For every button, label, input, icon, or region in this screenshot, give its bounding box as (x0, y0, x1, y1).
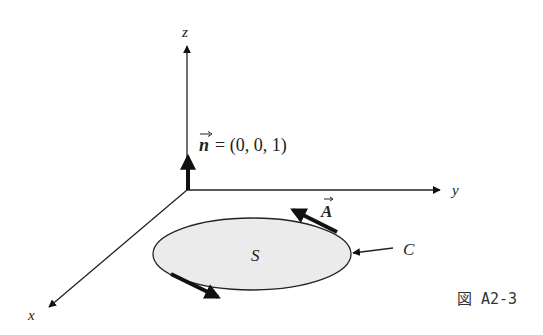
tangent-vector-a-label: A (320, 197, 333, 221)
vector-field-diagram: z y x n = (0, 0, 1) A S C 図 A2-3 (0, 0, 543, 335)
z-axis-label: z (181, 24, 188, 40)
normal-vector-symbol: n (199, 135, 209, 155)
normal-vector-label: n = (0, 0, 1) (199, 132, 287, 157)
y-axis-label: y (450, 182, 459, 198)
figure-caption: 図 A2-3 (457, 290, 517, 308)
x-axis-label: x (27, 307, 35, 323)
curve-c-pointer-arrow (353, 248, 393, 253)
curve-c-label: C (403, 240, 415, 259)
tangent-vector-a-text: A (320, 202, 332, 221)
normal-vector-equation: = (0, 0, 1) (215, 135, 287, 156)
surface-s-label: S (251, 246, 260, 265)
